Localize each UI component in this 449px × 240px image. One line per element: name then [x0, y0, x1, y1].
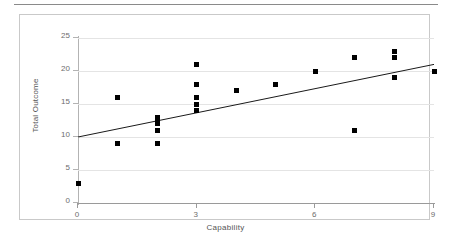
data-point [392, 49, 397, 54]
y-axis-tick-label: 15 [46, 98, 70, 106]
data-point [194, 62, 199, 67]
y-axis-tick-mark [73, 136, 78, 137]
y-axis-tick-label-wrap: 5 [44, 164, 70, 174]
data-point [115, 95, 120, 100]
data-point [234, 88, 239, 93]
data-point [155, 141, 160, 146]
data-point [432, 69, 437, 74]
data-point [352, 55, 357, 60]
x-axis-tick-label: 0 [62, 211, 92, 219]
x-axis-tick-mark [77, 203, 78, 208]
data-point [392, 55, 397, 60]
data-point [392, 75, 397, 80]
x-axis-tick-label: 6 [299, 211, 329, 219]
y-axis-tick-label-wrap: 25 [44, 32, 70, 42]
trendline-svg [78, 38, 434, 203]
y-axis-tick-mark [73, 37, 78, 38]
x-axis-tick-mark [196, 203, 197, 208]
y-axis-tick-label: 10 [46, 131, 70, 139]
data-point [76, 181, 81, 186]
y-axis-tick-label-wrap: 20 [44, 65, 70, 75]
y-axis-tick-mark [73, 70, 78, 71]
y-axis-tick-label-wrap: 0 [44, 197, 70, 207]
y-axis-tick-label: 25 [46, 32, 70, 40]
y-axis-title: Total Outcome [31, 61, 40, 151]
data-point [155, 121, 160, 126]
y-axis-tick-mark [73, 103, 78, 104]
x-axis-tick-label: 3 [181, 211, 211, 219]
y-axis-tick-label-wrap: 10 [44, 131, 70, 141]
x-axis-tick-mark [433, 203, 434, 208]
data-point [194, 102, 199, 107]
x-axis-tick-mark [314, 203, 315, 208]
y-axis-tick-label: 20 [46, 65, 70, 73]
data-point [115, 141, 120, 146]
page-divider-rule [14, 4, 438, 5]
data-point [194, 82, 199, 87]
data-point [313, 69, 318, 74]
data-point [273, 82, 278, 87]
data-point [155, 128, 160, 133]
x-axis-line [78, 203, 435, 204]
y-axis-tick-label: 5 [46, 164, 70, 172]
data-point [352, 128, 357, 133]
data-point [194, 108, 199, 113]
trendline [78, 64, 434, 137]
data-point [194, 95, 199, 100]
x-axis-tick-label: 9 [418, 211, 448, 219]
figure-page: 0510152025 0369 Capability Total Outcome [0, 0, 449, 240]
y-axis-tick-label: 0 [46, 197, 70, 205]
plot-area [78, 38, 434, 203]
y-axis-tick-mark [73, 169, 78, 170]
y-axis-tick-label-wrap: 15 [44, 98, 70, 108]
chart-frame: 0510152025 0369 Capability Total Outcome [19, 14, 430, 220]
x-axis-title: Capability [20, 223, 431, 232]
